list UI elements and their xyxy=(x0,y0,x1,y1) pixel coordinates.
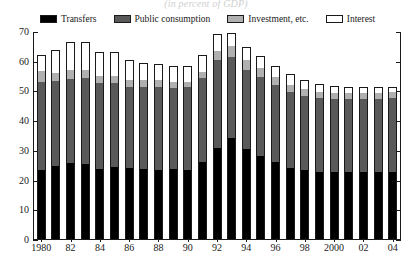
bar xyxy=(95,52,104,239)
bar-segment xyxy=(37,82,46,171)
bar-segment xyxy=(330,172,339,239)
bar-segment xyxy=(242,47,251,60)
bar xyxy=(330,86,339,239)
bar-segment xyxy=(125,168,134,239)
y-axis-tick-label: 60 xyxy=(3,57,29,67)
x-axis-tick-label: 88 xyxy=(153,242,163,254)
bar xyxy=(300,80,309,239)
bar-segment xyxy=(256,56,265,68)
bar-segment xyxy=(169,66,178,82)
y-axis-tick-label: 0 xyxy=(3,235,29,245)
bar-segment xyxy=(95,76,104,83)
bar-segment xyxy=(213,60,222,148)
bar-segment xyxy=(81,42,90,70)
bar-segment xyxy=(154,80,163,87)
bar-segment xyxy=(95,83,104,169)
bar-segment xyxy=(286,92,295,167)
bar-segment xyxy=(154,64,163,81)
y-axis-tick-right xyxy=(396,240,400,241)
bar-segment xyxy=(300,170,309,239)
bar-segment xyxy=(66,70,75,79)
bar-segment xyxy=(183,87,192,170)
bar-segment xyxy=(359,172,368,239)
bar-segment xyxy=(37,170,46,239)
bar-segment xyxy=(51,81,60,166)
bar xyxy=(315,84,324,239)
bar-segment xyxy=(81,70,90,78)
x-axis-tick-label: 92 xyxy=(212,242,222,254)
bar-segment xyxy=(110,167,119,239)
bar-segment xyxy=(300,96,309,170)
bar xyxy=(66,42,75,239)
bar-segment xyxy=(315,172,324,239)
bar xyxy=(242,47,251,239)
legend-label: Interest xyxy=(347,14,376,24)
bar-segment xyxy=(330,86,339,93)
bar-segment xyxy=(125,60,134,80)
bar-segment xyxy=(110,83,119,167)
bar-segment xyxy=(374,172,383,239)
bar-segment xyxy=(198,78,207,162)
x-axis-tick-label: 98 xyxy=(300,242,310,254)
x-axis-tick-label: 86 xyxy=(124,242,134,254)
bar-segment xyxy=(227,46,236,56)
bar-segment xyxy=(213,51,222,61)
bar xyxy=(81,42,90,239)
x-axis-tick-label: 84 xyxy=(95,242,105,254)
x-axis-labels: 198082848688909294969820000204 xyxy=(33,242,401,258)
bar xyxy=(344,87,353,239)
bar-segment xyxy=(374,99,383,172)
bar xyxy=(110,52,119,239)
y-axis-tick-label: 70 xyxy=(3,27,29,37)
y-axis-tick-label: 30 xyxy=(3,146,29,156)
bar-segment xyxy=(315,98,324,172)
bar-segment xyxy=(242,149,251,239)
bar xyxy=(256,56,265,239)
bar xyxy=(227,33,236,239)
bar xyxy=(125,60,134,239)
legend-label: Transfers xyxy=(61,14,97,24)
bar-segment xyxy=(37,71,46,81)
bar-segment xyxy=(271,162,280,239)
x-axis-tick-label: 2000 xyxy=(324,242,344,254)
y-axis-tick-label: 20 xyxy=(3,176,29,186)
bar xyxy=(213,34,222,239)
bar-segment xyxy=(256,68,265,77)
bar-series-container xyxy=(34,32,400,239)
bar xyxy=(37,55,46,239)
bar-segment xyxy=(169,88,178,169)
chart-title: (in percent of GDP) xyxy=(0,0,412,9)
x-axis-tick-label: 02 xyxy=(358,242,368,254)
bar-segment xyxy=(66,79,75,163)
legend-label: Investment, etc. xyxy=(248,14,308,24)
bar-segment xyxy=(388,172,397,239)
chart-legend: TransfersPublic consumptionInvestment, e… xyxy=(40,13,400,25)
legend-swatch xyxy=(114,15,131,23)
bar-segment xyxy=(359,99,368,172)
bar-segment xyxy=(300,80,309,90)
bar-segment xyxy=(242,70,251,150)
x-axis-tick-label: 82 xyxy=(66,242,76,254)
legend-label: Public consumption xyxy=(135,14,211,24)
bar-segment xyxy=(388,98,397,172)
bar-segment xyxy=(139,80,148,88)
bar-segment xyxy=(51,50,60,73)
bar-segment xyxy=(286,168,295,239)
y-axis-tick-label: 50 xyxy=(3,86,29,96)
x-axis-tick-label: 1980 xyxy=(31,242,51,254)
y-axis-tick-label: 40 xyxy=(3,116,29,126)
x-axis-tick-label: 90 xyxy=(183,242,193,254)
bar-segment xyxy=(213,148,222,239)
legend-swatch xyxy=(227,15,244,23)
legend-item: Public consumption xyxy=(114,14,211,24)
bar-segment xyxy=(110,52,119,76)
bar-segment xyxy=(154,87,163,170)
legend-swatch xyxy=(326,15,343,23)
bar xyxy=(154,64,163,239)
bar-segment xyxy=(330,99,339,172)
x-axis-tick-label: 04 xyxy=(388,242,398,254)
legend-swatch xyxy=(40,15,57,23)
bar xyxy=(388,87,397,239)
bar-segment xyxy=(66,42,75,69)
bar xyxy=(271,66,280,240)
